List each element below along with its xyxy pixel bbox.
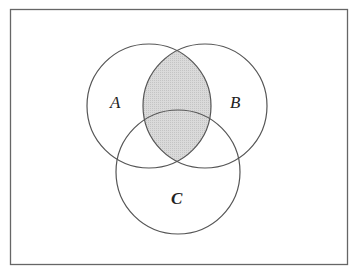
label-b: B [230,93,241,112]
label-a: A [109,93,121,112]
venn-diagram: A B C [0,0,351,272]
label-c: C [171,189,183,208]
